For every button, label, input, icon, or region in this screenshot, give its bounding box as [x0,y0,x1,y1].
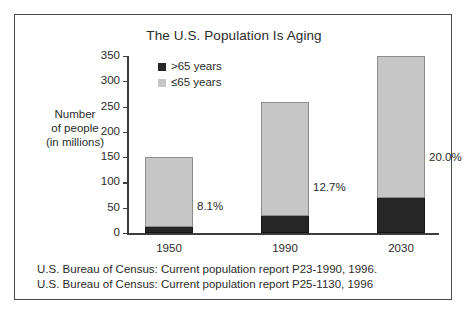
bar-1990 [261,102,309,233]
y-tick-mark [123,182,127,183]
bar-2030 [377,56,425,233]
y-tick-mark [123,157,127,158]
y-tick-label: 350 [101,50,120,62]
source-line-2: U.S. Bureau of Census: Current populatio… [37,277,437,292]
plot-area: 350300250200150100500 >65 years≤65 years… [127,56,439,233]
y-tick-mark [123,56,127,57]
bar-segment-under-65-2030 [377,56,425,198]
bar-segment-under-65-1990 [261,102,309,217]
y-tick-mark [123,208,127,209]
y-tick-label: 200 [101,126,120,138]
x-tick-label-1990: 1990 [261,242,309,254]
y-tick-label: 150 [101,151,120,163]
y-tick-mark [123,132,127,133]
legend-item-under-65: ≤65 years [158,75,222,91]
chart-legend: >65 years≤65 years [158,59,222,91]
y-tick-mark [123,81,127,82]
bar-percent-label-2030: 20.0% [429,152,462,164]
x-tick-label-1950: 1950 [145,242,193,254]
y-tick-label: 300 [101,76,120,88]
bar-segment-over-65-2030 [377,198,425,233]
y-tick-mark [123,107,127,108]
y-tick-label: 0 [114,227,120,239]
y-tick-mark [123,233,127,234]
bar-segment-over-65-1950 [145,227,193,233]
chart-title: The U.S. Population Is Aging [15,28,453,43]
legend-swatch-over-65-icon [158,63,166,71]
y-tick-label: 250 [101,101,120,113]
y-axis-line [127,56,129,233]
bar-segment-under-65-1950 [145,157,193,227]
x-axis-line [127,233,439,235]
y-tick-label: 100 [101,177,120,189]
legend-label: ≤65 years [171,77,221,89]
chart-figure: The U.S. Population Is Aging Number of p… [14,14,452,300]
legend-item-over-65: >65 years [158,59,222,75]
y-tick-label: 50 [107,202,120,214]
bar-percent-label-1950: 8.1% [197,201,223,213]
bar-segment-over-65-1990 [261,216,309,233]
legend-label: >65 years [171,61,222,73]
bar-1950 [145,157,193,233]
source-line-1: U.S. Bureau of Census: Current populatio… [37,262,437,277]
source-notes: U.S. Bureau of Census: Current populatio… [37,262,437,292]
legend-swatch-under-65-icon [158,79,166,87]
bar-percent-label-1990: 12.7% [313,182,346,194]
x-tick-label-2030: 2030 [377,242,425,254]
